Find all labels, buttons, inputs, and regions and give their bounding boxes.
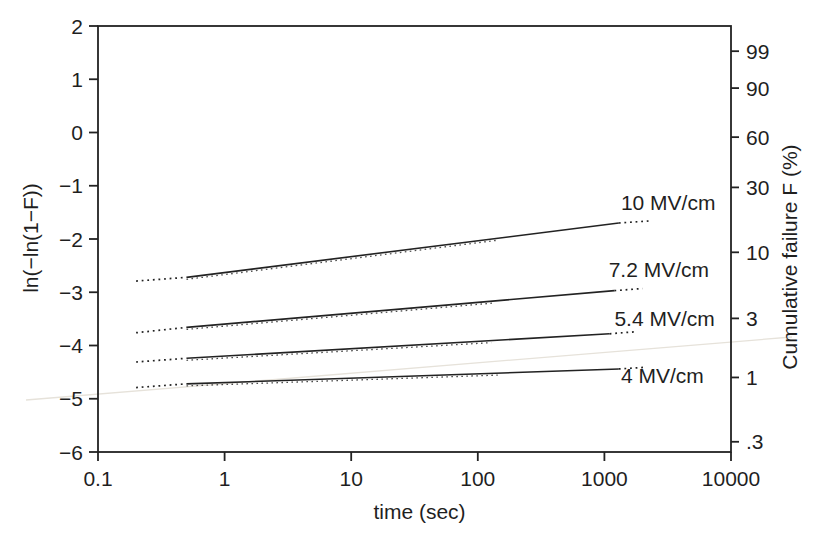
series-line-7-2-mv-cm-dotted (136, 327, 186, 332)
x-axis-tick-label: 1 (219, 467, 231, 490)
y-axis-right-tick-label: 30 (746, 176, 769, 199)
x-axis-tick-label: 10000 (702, 467, 760, 490)
y-axis-right-tick-label: 10 (746, 241, 769, 264)
y-axis-right-tick-label: 60 (746, 126, 769, 149)
y-axis-left-tick-label: −6 (59, 441, 83, 464)
weibull-plot: 0.1110100100010000210−1−2−3−4−5−69990603… (0, 0, 815, 545)
y-axis-left-tick-label: 1 (71, 68, 83, 91)
series-datapoints-7-2-mv-cm (186, 303, 494, 329)
series-datapoints-4-mv-cm (186, 375, 497, 386)
x-axis-title: time (sec) (373, 500, 465, 523)
y-axis-right-tick-label: 1 (746, 366, 758, 389)
y-axis-right-tick-label: 3 (746, 307, 758, 330)
series-line-10-mv-cm-solid (186, 223, 618, 277)
scanned-figure: 0.1110100100010000210−1−2−3−4−5−69990603… (0, 0, 815, 545)
series-line-5-4-mv-cm-solid (186, 334, 609, 358)
series-line-4-mv-cm-solid (186, 369, 618, 384)
x-axis-tick-label: 10 (340, 467, 363, 490)
series-line-7-2-mv-cm-solid (186, 291, 614, 328)
series-label-4-mv-cm: 4 MV/cm (621, 364, 704, 387)
series-datapoints-10-mv-cm (186, 240, 497, 279)
series-label-7-2-mv-cm: 7.2 MV/cm (609, 258, 709, 281)
y-axis-left-tick-label: 0 (71, 121, 83, 144)
y-axis-left-tick-label: −4 (59, 334, 83, 357)
y-axis-right-tick-label: .3 (746, 430, 764, 453)
series-line-5-4-mv-cm-dotted (136, 358, 186, 362)
series-line-5-4-mv-cm-dotted (610, 332, 637, 334)
y-axis-left-tick-label: −5 (59, 387, 83, 410)
y-axis-left-title: ln(−ln(1−F)) (19, 183, 42, 293)
x-axis-tick-label: 1000 (581, 467, 628, 490)
series-label-10-mv-cm: 10 MV/cm (621, 191, 716, 214)
y-axis-left-tick-label: −2 (59, 228, 83, 251)
series-line-10-mv-cm-dotted (619, 221, 650, 223)
x-axis-tick-label: 100 (460, 467, 495, 490)
y-axis-left-tick-label: −3 (59, 281, 83, 304)
y-axis-right-title: Cumulative failure F (%) (778, 144, 801, 369)
x-axis-tick-label: 0.1 (83, 467, 112, 490)
y-axis-right-tick-label: 90 (746, 77, 769, 100)
series-label-5-4-mv-cm: 5.4 MV/cm (614, 307, 714, 330)
series-line-7-2-mv-cm-dotted (614, 289, 642, 291)
series-line-10-mv-cm-dotted (136, 277, 186, 281)
y-axis-left-tick-label: 2 (71, 15, 83, 38)
plot-frame (98, 26, 731, 452)
y-axis-left-tick-label: −1 (59, 174, 83, 197)
series-datapoints-5-4-mv-cm (186, 343, 491, 361)
y-axis-right-tick-label: 99 (746, 40, 769, 63)
